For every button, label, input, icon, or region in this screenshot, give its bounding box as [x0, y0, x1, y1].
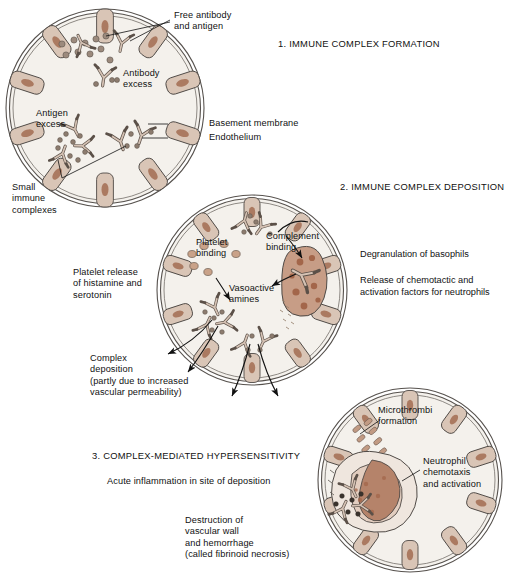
- section-title-1: 1. IMMUNE COMPLEX FORMATION: [278, 38, 440, 50]
- label-microthrombi-formation: Microthrombi formation: [378, 405, 432, 428]
- basophil: [282, 246, 327, 316]
- label-platelet-binding: Platelet binding: [196, 237, 227, 260]
- label-neutrophil-chemotaxis: Neutrophil chemotaxis and activation: [423, 456, 481, 490]
- label-complement-binding: Complement binding: [266, 231, 319, 254]
- label-small-immune-complexes: Small immune complexes: [12, 182, 57, 216]
- figure-root: 1. IMMUNE COMPLEX FORMATION 2. IMMUNE CO…: [0, 0, 518, 575]
- section-title-2: 2. IMMUNE COMPLEX DEPOSITION: [340, 181, 504, 193]
- label-free-antibody-antigen: Free antibody and antigen: [174, 10, 231, 33]
- label-vasoactive-amines: Vasoactive amines: [229, 283, 274, 306]
- label-antibody-excess: Antibody excess: [123, 68, 160, 91]
- note-acute-inflammation: Acute inflammation in site of deposition: [107, 476, 270, 487]
- note-chemotactic-factors: Release of chemotactic and activation fa…: [360, 274, 490, 299]
- label-platelet-release: Platelet release of histamine and seroto…: [73, 267, 142, 301]
- label-basement-membrane: Basement membrane: [209, 118, 299, 129]
- note-destruction-vascular-wall: Destruction of vascular wall and hemorrh…: [185, 515, 289, 560]
- label-complex-deposition: Complex deposition (partly due to increa…: [90, 353, 188, 398]
- note-degranulation-basophils: Degranulation of basophils: [360, 248, 469, 260]
- section-title-3: 3. COMPLEX-MEDIATED HYPERSENSITIVITY: [92, 450, 300, 462]
- label-endothelium: Endothelium: [209, 132, 261, 143]
- label-antigen-excess: Antigen excess: [36, 108, 68, 131]
